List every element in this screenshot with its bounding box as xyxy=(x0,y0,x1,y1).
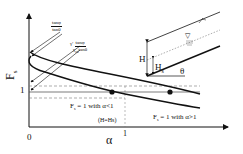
lower-curve xyxy=(29,56,200,108)
intersection-dot-alpha-lt-1 xyxy=(109,89,114,94)
water-table-icon: ▽ xyxy=(185,33,190,40)
label-fs-1-alpha-lt-1: Fs = 1 with α<1 xyxy=(70,103,113,111)
y-tick-1: 1 xyxy=(20,86,25,95)
upper-curve xyxy=(30,52,200,94)
leader-line-upper xyxy=(31,32,60,52)
leader-line-upper-2 xyxy=(32,34,62,56)
x-tick-1: 1 xyxy=(123,130,127,138)
x-axis-label: α xyxy=(106,134,112,146)
intersection-dot-alpha-gt-1 xyxy=(167,89,172,94)
label-fs-1-alpha-gt-1: Fs = 1 with α>1 xyxy=(153,114,196,122)
inset-label-h: H xyxy=(139,55,146,64)
annotation-gamma-ratio: tanφ γsattanθ xyxy=(73,40,87,54)
diagram-canvas xyxy=(0,0,243,154)
inset-label-theta: θ xyxy=(180,67,184,76)
annotation-tanphi-over-tantheta: tanφ tanθ xyxy=(51,20,62,32)
inset-label-hs: Hs xyxy=(155,63,164,74)
x-tick-0: 0 xyxy=(27,133,32,142)
label-h-equals-hs: (H=Hs) xyxy=(98,117,116,123)
y-axis-label: Fs xyxy=(4,71,19,80)
